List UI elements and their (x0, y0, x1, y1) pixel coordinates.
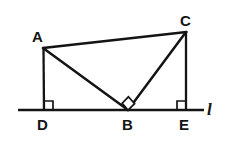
geometry-figure: A C D B E l (0, 0, 238, 149)
vertex-label-a: A (32, 29, 43, 44)
segment-AC (43, 32, 187, 48)
right-angle-marker-E (177, 101, 186, 110)
segment-BC (128, 32, 186, 110)
vertex-label-e: E (179, 117, 189, 132)
segment-AD (44, 48, 45, 110)
vertex-label-d: D (37, 117, 48, 132)
vertex-label-c: C (180, 13, 191, 28)
right-angle-marker-D (44, 101, 53, 110)
vertex-label-b: B (122, 117, 133, 132)
figure-canvas (0, 0, 238, 149)
line-label-l: l (207, 101, 212, 118)
segment-AB (43, 48, 128, 110)
